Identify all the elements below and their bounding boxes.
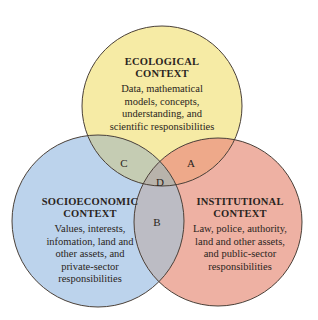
institutional-title-line1: INSTITUTIONAL: [170, 196, 310, 208]
socioeconomic-title-line2: CONTEXT: [20, 208, 160, 220]
institutional-desc-line: Law, police, authority,: [170, 223, 310, 236]
ecological-desc-line: scientific responsibilities: [82, 121, 242, 134]
ecological-title: ECOLOGICAL CONTEXT: [82, 56, 242, 80]
socioeconomic-title-line1: SOCIOECONOMIC: [20, 196, 160, 208]
socioeconomic-desc-line: responsibilities: [20, 273, 160, 286]
institutional-desc-line: responsibilities: [170, 261, 310, 274]
overlap-label-d: D: [156, 176, 164, 188]
ecological-description: Data, mathematical models, concepts, und…: [82, 83, 242, 133]
ecological-title-line2: CONTEXT: [82, 68, 242, 80]
overlap-label-c: C: [120, 157, 127, 169]
overlap-label-a: A: [187, 157, 195, 169]
ecological-title-line1: ECOLOGICAL: [82, 56, 242, 68]
socioeconomic-title: SOCIOECONOMIC CONTEXT: [20, 196, 160, 220]
socioeconomic-context-block: SOCIOECONOMIC CONTEXT Values, interests,…: [20, 196, 160, 286]
ecological-desc-line: models, concepts,: [82, 96, 242, 109]
overlap-label-b: B: [153, 216, 160, 228]
institutional-context-block: INSTITUTIONAL CONTEXT Law, police, autho…: [170, 196, 310, 273]
institutional-desc-line: and public-sector: [170, 248, 310, 261]
socioeconomic-desc-line: Values, interests,: [20, 223, 160, 236]
socioeconomic-desc-line: private-sector: [20, 261, 160, 274]
institutional-desc-line: land and other assets,: [170, 236, 310, 249]
ecological-context-block: ECOLOGICAL CONTEXT Data, mathematical mo…: [82, 56, 242, 133]
ecological-desc-line: understanding, and: [82, 108, 242, 121]
institutional-description: Law, police, authority, land and other a…: [170, 223, 310, 273]
socioeconomic-description: Values, interests, infomation, land and …: [20, 223, 160, 286]
socioeconomic-desc-line: infomation, land and: [20, 236, 160, 249]
institutional-title-line2: CONTEXT: [170, 208, 310, 220]
institutional-title: INSTITUTIONAL CONTEXT: [170, 196, 310, 220]
socioeconomic-desc-line: other assets, and: [20, 248, 160, 261]
ecological-desc-line: Data, mathematical: [82, 83, 242, 96]
